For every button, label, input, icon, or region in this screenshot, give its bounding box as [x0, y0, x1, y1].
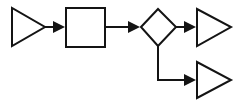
flowchart-svg	[0, 0, 243, 105]
connector-diamond-to-bottom-output-arrowhead	[184, 74, 196, 86]
connector-input-to-square-arrowhead	[53, 21, 65, 33]
decision-diamond[interactable]	[141, 9, 176, 46]
connector-diamond-to-top-output-arrowhead	[184, 21, 196, 33]
connector-diamond-to-bottom-output	[158, 46, 192, 80]
output-triangle-top[interactable]	[197, 9, 231, 46]
diagram-canvas	[0, 0, 243, 105]
input-triangle[interactable]	[12, 8, 45, 46]
output-triangle-bottom[interactable]	[197, 62, 231, 98]
process-square[interactable]	[66, 8, 105, 47]
node-group	[12, 8, 231, 98]
connector-square-to-diamond-arrowhead	[128, 21, 140, 33]
